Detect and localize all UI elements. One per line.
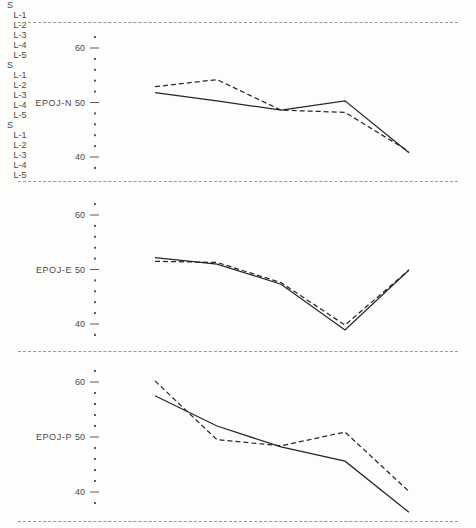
panel-plot-epoj-p <box>0 0 476 528</box>
chart-root: EPOJ-NSL-1L-2L-3L-4L-5405060EPOJ-ESL-1L-… <box>0 0 476 528</box>
